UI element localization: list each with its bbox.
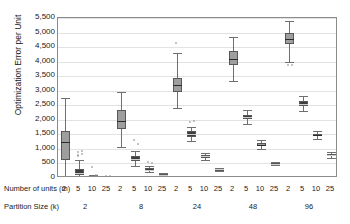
cap-lower	[229, 81, 238, 82]
outlier-point	[77, 155, 79, 157]
x-tick-units: 10	[141, 184, 155, 193]
median-line	[243, 117, 252, 118]
x-tick-units: 2	[225, 184, 239, 193]
cap-upper	[285, 21, 294, 22]
cap-upper	[173, 53, 182, 54]
y-axis-tick-label: 4,000	[9, 57, 55, 65]
x-tick-units: 10	[85, 184, 99, 193]
cap-lower	[145, 172, 154, 173]
box-whisker	[215, 18, 224, 177]
partition-row-title: Partition Size (k)	[4, 202, 59, 211]
cap-lower	[187, 141, 196, 142]
x-tick-units: 25	[323, 184, 337, 193]
box-whisker	[229, 18, 238, 177]
outlier-point	[95, 174, 97, 176]
whisker-upper	[177, 53, 178, 78]
median-line	[117, 121, 126, 122]
gridline	[58, 163, 336, 164]
cap-lower	[159, 176, 168, 177]
y-axis-tick-label: 3,000	[9, 86, 55, 94]
cap-lower	[61, 176, 70, 177]
cap-lower	[215, 171, 224, 172]
median-line	[215, 169, 224, 170]
x-tick-units: 2	[169, 184, 183, 193]
x-tick-units: 5	[127, 184, 141, 193]
cap-lower	[271, 165, 280, 166]
outlier-point	[81, 153, 83, 155]
outlier-point	[291, 64, 293, 66]
outlier-point	[81, 150, 83, 152]
median-line	[131, 159, 140, 160]
x-tick-units: 25	[99, 184, 113, 193]
x-tick-units: 2	[113, 184, 127, 193]
box-body	[89, 176, 98, 177]
y-axis-tick-label: 5,500	[9, 13, 55, 21]
x-tick-partition-size: 24	[177, 202, 217, 211]
y-axis-tick-label: 500	[9, 158, 55, 166]
cap-upper	[313, 131, 322, 132]
y-axis-tick-label: 1,500	[9, 129, 55, 137]
x-tick-units: 2	[57, 184, 71, 193]
x-tick-partition-size: 96	[289, 202, 329, 211]
cap-upper	[299, 96, 308, 97]
x-tick-units: 25	[155, 184, 169, 193]
box-whisker	[145, 18, 154, 177]
cap-upper	[229, 37, 238, 38]
box-whisker	[89, 18, 98, 177]
cap-upper	[201, 153, 210, 154]
cap-upper	[243, 110, 252, 111]
box-whisker	[75, 18, 84, 177]
box-whisker	[131, 18, 140, 177]
y-axis-tick-label: 0	[9, 173, 55, 181]
cap-upper	[257, 140, 266, 141]
cap-lower	[117, 147, 126, 148]
gridline	[58, 18, 336, 19]
x-tick-units: 5	[71, 184, 85, 193]
whisker-lower	[79, 175, 80, 177]
x-tick-units: 25	[267, 184, 281, 193]
median-line	[327, 155, 336, 156]
x-tick-units: 2	[281, 184, 295, 193]
outlier-point	[133, 139, 135, 141]
cap-lower	[299, 111, 308, 112]
median-line	[75, 173, 84, 174]
median-line	[61, 142, 70, 143]
outlier-point	[151, 162, 153, 164]
box-whisker	[257, 18, 266, 177]
median-line	[201, 156, 210, 157]
x-tick-units: 10	[309, 184, 323, 193]
whisker-upper	[233, 37, 234, 52]
cap-lower	[313, 139, 322, 140]
x-tick-units: 10	[197, 184, 211, 193]
outlier-point	[137, 143, 139, 145]
box-whisker	[271, 18, 280, 177]
gridline	[58, 91, 336, 92]
whisker-lower	[233, 65, 234, 81]
y-axis-tick-label: 2,000	[9, 115, 55, 123]
median-line	[187, 134, 196, 135]
whisker-upper	[79, 160, 80, 169]
box-whisker	[201, 18, 210, 177]
gridline	[58, 76, 336, 77]
x-tick-units: 10	[253, 184, 267, 193]
cap-upper	[131, 151, 140, 152]
cap-lower	[201, 160, 210, 161]
median-line	[313, 135, 322, 136]
outlier-point	[175, 42, 177, 44]
box-body	[61, 131, 70, 160]
y-axis-tick-label: 5,000	[9, 28, 55, 36]
x-tick-units: 25	[211, 184, 225, 193]
cap-upper	[145, 166, 154, 167]
y-axis-tick-label: 1,000	[9, 144, 55, 152]
outlier-point	[287, 64, 289, 66]
y-axis-tick-label: 2,500	[9, 100, 55, 108]
outlier-point	[77, 151, 79, 153]
median-line	[229, 59, 238, 60]
median-line	[299, 104, 308, 105]
box-whisker	[103, 18, 112, 177]
x-tick-units: 5	[239, 184, 253, 193]
cap-lower	[257, 149, 266, 150]
box-whisker	[285, 18, 294, 177]
plot-area	[57, 17, 337, 177]
outlier-point	[91, 166, 93, 168]
